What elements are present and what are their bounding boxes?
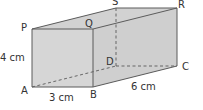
face-front — [32, 29, 93, 87]
vertex-label-A: A — [21, 85, 28, 96]
dimension-height: 4 cm — [0, 52, 25, 63]
vertex-label-R: R — [178, 0, 185, 10]
vertex-label-Q: Q — [85, 18, 93, 29]
cuboid-diagram: P Q S R D C A B 4 cm 3 cm 6 cm — [0, 0, 203, 110]
vertex-label-C: C — [182, 61, 189, 72]
vertex-label-B: B — [90, 89, 97, 100]
dimension-length: 6 cm — [131, 81, 156, 92]
vertex-label-S: S — [112, 0, 118, 7]
vertex-label-P: P — [21, 22, 27, 33]
vertex-label-D: D — [106, 56, 114, 67]
dimension-width: 3 cm — [49, 92, 74, 103]
